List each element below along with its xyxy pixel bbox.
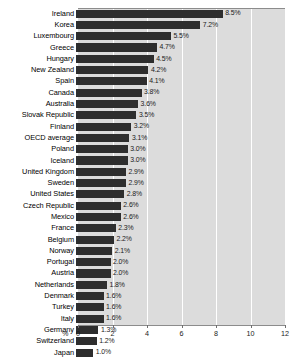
axis-tick xyxy=(147,325,148,328)
category-label: France xyxy=(0,224,76,232)
chart-row: Japan1.0% xyxy=(0,347,301,358)
bar-track: 3.8% xyxy=(76,87,283,98)
bar-track: 8.5% xyxy=(76,8,283,19)
bar-value-label: 2.6% xyxy=(123,201,138,209)
bar-track: 4.1% xyxy=(76,76,283,87)
bar-track: 3.1% xyxy=(76,132,283,143)
bar-track: 1.6% xyxy=(76,313,283,324)
bar xyxy=(76,303,104,311)
bar-value-label: 2.3% xyxy=(118,224,133,232)
axis-tick-label: 6 xyxy=(180,329,184,338)
chart-rows: Ireland8.5%Korea7.2%Luxembourg5.5%Greece… xyxy=(0,8,301,358)
category-label: Mexico xyxy=(0,213,76,221)
bar xyxy=(76,77,147,85)
chart-row: Denmark1.6% xyxy=(0,290,301,301)
axis-tick-label: 4 xyxy=(145,329,149,338)
chart-row: Belgium2.2% xyxy=(0,234,301,245)
category-label: Turkey xyxy=(0,303,76,311)
bar xyxy=(76,292,104,300)
category-label: Canada xyxy=(0,89,76,97)
bar-value-label: 4.2% xyxy=(151,66,166,74)
bar-value-label: 5.5% xyxy=(173,32,188,40)
chart-row: Slovak Republic3.5% xyxy=(0,110,301,121)
axis-tick xyxy=(285,325,286,328)
category-label: Switzerland xyxy=(0,337,76,345)
chart-row: Mexico2.6% xyxy=(0,211,301,222)
bar-value-label: 2.9% xyxy=(129,168,144,176)
bar-value-label: 2.0% xyxy=(113,269,128,277)
axis-tick-label: 12 xyxy=(281,329,289,338)
bar-value-label: 3.0% xyxy=(130,145,145,153)
bar-value-label: 4.7% xyxy=(160,43,175,51)
category-label: United States xyxy=(0,190,76,198)
bar-value-label: 1.8% xyxy=(110,281,125,289)
bar xyxy=(76,179,126,187)
chart-row: Norway2.1% xyxy=(0,245,301,256)
bar-track: 2.2% xyxy=(76,234,283,245)
bar xyxy=(76,190,124,198)
category-label: Australia xyxy=(0,100,76,108)
bar xyxy=(76,55,154,63)
chart-row: Netherlands1.8% xyxy=(0,279,301,290)
bar-track: 3.5% xyxy=(76,110,283,121)
chart-row: Luxembourg5.5% xyxy=(0,31,301,42)
bar xyxy=(76,66,148,74)
category-label: Italy xyxy=(0,315,76,323)
bar-value-label: 2.0% xyxy=(113,258,128,266)
bar xyxy=(76,269,111,277)
chart-row: Finland3.2% xyxy=(0,121,301,132)
chart-row: Portugal2.0% xyxy=(0,257,301,268)
bar-track: 1.0% xyxy=(76,347,283,358)
bar-track: 4.7% xyxy=(76,42,283,53)
bar xyxy=(76,123,131,131)
bar xyxy=(76,224,116,232)
bar xyxy=(76,202,121,210)
category-label: Norway xyxy=(0,247,76,255)
bar-track: 3.6% xyxy=(76,98,283,109)
bar-track: 4.5% xyxy=(76,53,283,64)
bar-track: 3.0% xyxy=(76,155,283,166)
bar xyxy=(76,32,171,40)
category-label: Netherlands xyxy=(0,281,76,289)
axis-tick-label: 10 xyxy=(247,329,255,338)
bar-value-label: 1.0% xyxy=(96,348,111,356)
chart-row: Spain4.1% xyxy=(0,76,301,87)
category-label: Sweden xyxy=(0,179,76,187)
bar-track: 2.3% xyxy=(76,223,283,234)
bar-track: 4.2% xyxy=(76,64,283,75)
chart-row: Poland3.0% xyxy=(0,144,301,155)
chart-row: OECD average3.1% xyxy=(0,132,301,143)
bar-track: 2.9% xyxy=(76,177,283,188)
bar-track: 3.0% xyxy=(76,144,283,155)
bar-value-label: 3.2% xyxy=(134,122,149,130)
bar-value-label: 3.5% xyxy=(139,111,154,119)
chart-row: Hungary4.5% xyxy=(0,53,301,64)
bar-track: 2.9% xyxy=(76,166,283,177)
bar xyxy=(76,10,223,18)
bar xyxy=(76,156,128,164)
bar-value-label: 3.0% xyxy=(130,156,145,164)
chart-row: Korea7.2% xyxy=(0,19,301,30)
chart-row: Italy1.6% xyxy=(0,313,301,324)
bar-value-label: 2.2% xyxy=(116,235,131,243)
bar-track: 2.6% xyxy=(76,200,283,211)
chart-row: United States2.8% xyxy=(0,189,301,200)
axis-tick xyxy=(182,325,183,328)
bar-value-label: 8.5% xyxy=(225,9,240,17)
bar-value-label: 1.6% xyxy=(106,314,121,322)
category-label: Greece xyxy=(0,44,76,52)
chart-row: Greece4.7% xyxy=(0,42,301,53)
bar-track: 3.2% xyxy=(76,121,283,132)
category-label: Poland xyxy=(0,145,76,153)
category-label: Austria xyxy=(0,269,76,277)
category-label: Portugal xyxy=(0,258,76,266)
x-axis: 024681012 xyxy=(78,325,285,345)
category-label: Iceland xyxy=(0,157,76,165)
bar-track: 1.6% xyxy=(76,302,283,313)
bar-value-label: 4.1% xyxy=(149,77,164,85)
bar xyxy=(76,213,121,221)
bar-value-label: 7.2% xyxy=(203,21,218,29)
chart-row: France2.3% xyxy=(0,223,301,234)
bar xyxy=(76,43,157,51)
